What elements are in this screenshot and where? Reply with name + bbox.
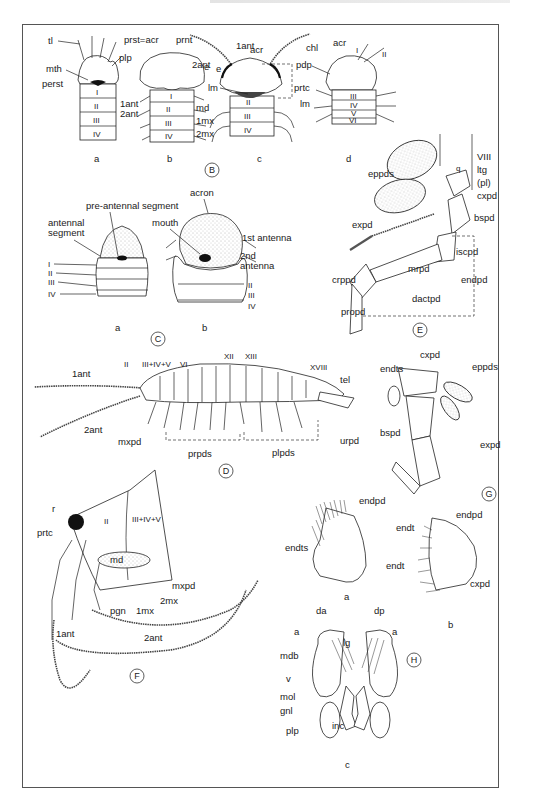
segment-label: IV (244, 126, 252, 135)
subfig-letter: a (94, 153, 100, 164)
segment-label: I (96, 88, 98, 97)
label-prst-acr: prst=acr (124, 34, 159, 45)
segment-label: IV (48, 290, 56, 299)
label-expd: expd (480, 439, 501, 450)
label-1ant: 1ant (72, 368, 91, 379)
label-prtc: prtc (294, 82, 310, 93)
label-eppds: eppds (472, 361, 498, 372)
label-viii: VIII (477, 151, 491, 162)
label-propd: propd (341, 306, 365, 317)
segment-label: I (356, 46, 358, 55)
label-v: v (286, 673, 291, 684)
label-chl: chl (306, 42, 318, 53)
subfig-letter: b (167, 153, 172, 164)
label-dp: dp (374, 605, 385, 616)
label-pl: (pl) (477, 177, 491, 188)
panel-letter-d: D (223, 466, 230, 476)
label-a-right: a (392, 626, 398, 637)
label-prpds: prpds (188, 448, 212, 459)
label-endpd: endpd (456, 509, 482, 520)
panel-letter-g: G (485, 489, 492, 499)
label-2ant: 2ant (144, 632, 163, 643)
label-endt: endt (386, 560, 405, 571)
label-pdp: pdp (296, 59, 312, 70)
label-urpd: urpd (340, 435, 359, 446)
segment-label: III (93, 116, 100, 125)
label-bspd: bspd (474, 212, 495, 223)
subfig-letter: c (345, 759, 350, 770)
label-dactpd: dactpd (412, 293, 441, 304)
segment-label: III (244, 112, 251, 121)
segment-label: I (48, 260, 50, 269)
label-perst: perst (42, 78, 63, 89)
label-acr: acr (250, 44, 263, 55)
segment-label: IV (165, 132, 173, 141)
panel-f (52, 470, 258, 688)
panel-letter-h: H (411, 655, 418, 665)
label-mouth: mouth (152, 217, 178, 228)
segment-label: I (170, 92, 172, 101)
label-vi: VI (180, 360, 188, 369)
segment-label: II (246, 98, 250, 107)
label-2mx: 2mx (160, 595, 178, 606)
label-lg: lg (343, 637, 350, 648)
label-iii-iv-v: III+IV+V (142, 360, 172, 369)
label-ii: II (104, 517, 108, 526)
subfig-letter: d (346, 153, 351, 164)
label-acr: acr (333, 37, 346, 48)
figure-plate-artwork: tl plp mth perst I II III IV a prst=acr … (0, 0, 535, 802)
label-md: md (110, 554, 123, 565)
label-endpd: endpd (461, 274, 487, 285)
segment-label: III (248, 291, 255, 300)
label-pgn: pgn (110, 605, 126, 616)
segment-label: III (165, 119, 172, 128)
label-lm: lm (300, 98, 310, 109)
panel-letter-b: B (209, 165, 215, 175)
label-xii: XII (224, 352, 234, 361)
label-antenna: antenna (240, 260, 275, 271)
panel-letter-f: F (134, 671, 140, 681)
panel-letter-e: E (417, 325, 423, 335)
label-xiii: XIII (245, 352, 257, 361)
segment-label: III (350, 92, 357, 101)
label-e: e (216, 63, 221, 74)
label-acron: acron (190, 187, 214, 198)
label-antennal-segment: segment (48, 227, 85, 238)
segment-label: II (382, 50, 386, 59)
label-expd: expd (352, 219, 373, 230)
label-inc: inc (332, 720, 344, 731)
label-pre-antennal-segment: pre-antennal segment (86, 200, 179, 211)
label-cxpd: cxpd (477, 190, 497, 201)
panel-c: pre-antennal segment antennal segment I … (48, 187, 292, 346)
label-1mx: 1mx (136, 605, 154, 616)
label-mol: mol (280, 691, 295, 702)
panel-g (388, 368, 475, 494)
label-1st-antenna: 1st antenna (242, 232, 292, 243)
subfig-letter: a (344, 591, 350, 602)
label-mth: mth (46, 63, 62, 74)
label-endt: endt (396, 522, 415, 533)
label-r: r (52, 503, 55, 514)
label-mxpd: mxpd (172, 580, 195, 591)
label-mrpd: mrpd (408, 263, 430, 274)
label-2ant: 2ant (192, 59, 211, 70)
subfig-letter: c (257, 153, 262, 164)
label-ltg: ltg (477, 164, 487, 175)
label-2ant: 2ant (120, 108, 139, 119)
label-plp: plp (286, 725, 299, 736)
segment-label: IV (248, 302, 256, 311)
label-2ant: 2ant (84, 424, 103, 435)
segment-label: VI (349, 116, 357, 125)
label-cxpd: cxpd (470, 578, 490, 589)
segment-label: II (48, 269, 52, 278)
label-tl: tl (48, 35, 53, 46)
label-mxpd: mxpd (118, 436, 141, 447)
label-iii-iv-v: III+IV+V (132, 515, 162, 524)
segment-label: II (94, 102, 98, 111)
label-plp: plp (119, 52, 132, 63)
label-endts: endts (380, 363, 403, 374)
label-plpds: plpds (272, 447, 295, 458)
subfig-letter: a (115, 322, 121, 333)
label-da: da (316, 605, 327, 616)
segment-label: II (166, 105, 170, 114)
